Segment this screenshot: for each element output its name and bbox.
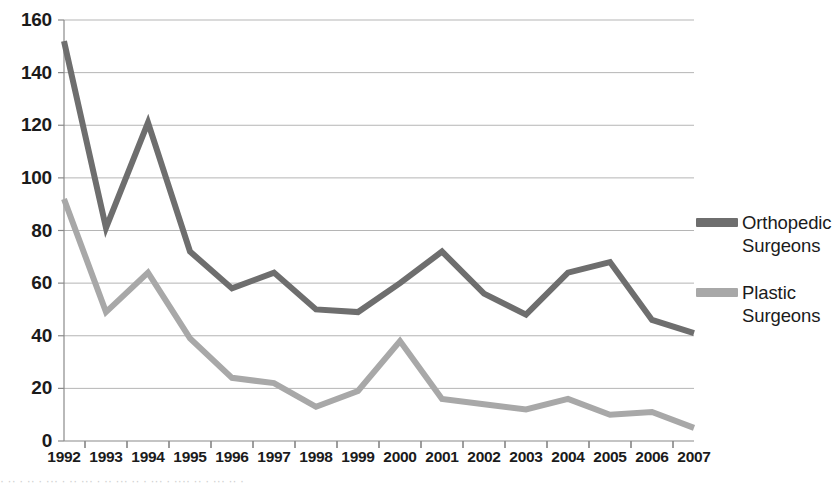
x-axis-ticks [85, 441, 673, 448]
cropped-caption: · ·· · ·· · ··· · ·· ··· · ·· ··· ·· · ·… [0, 474, 838, 484]
x-axis-tick-label: 2000 [377, 449, 423, 465]
x-axis-tick-label: 1992 [41, 449, 87, 465]
x-axis-tick-label: 2002 [461, 449, 507, 465]
x-axis-tick-label: 1999 [335, 449, 381, 465]
legend-label-orthopedic-line2: Surgeons [742, 235, 820, 256]
legend-item-plastic-surgeons[interactable]: PlasticSurgeons [696, 281, 836, 327]
legend-swatch-plastic [696, 288, 738, 297]
y-axis-ticks [58, 20, 64, 441]
y-axis-tick-label: 140 [8, 63, 52, 82]
x-axis-tick-label: 2005 [587, 449, 633, 465]
x-axis-tick-label: 1994 [125, 449, 171, 465]
legend-swatch-orthopedic [696, 218, 738, 227]
y-axis-tick-label: 40 [8, 326, 52, 345]
y-axis-tick-label: 80 [8, 221, 52, 240]
line-chart: 020406080100120140160 199219931994199519… [0, 0, 838, 484]
x-axis-tick-label: 1997 [251, 449, 297, 465]
x-axis-tick-label: 1993 [83, 449, 129, 465]
x-axis-tick-label: 1995 [167, 449, 213, 465]
legend-item-orthopedic-surgeons[interactable]: OrthopedicSurgeons [696, 211, 836, 257]
gridlines [64, 20, 694, 388]
y-axis-tick-label: 120 [8, 115, 52, 134]
y-axis-labels: 020406080100120140160 [0, 0, 52, 484]
legend-label-orthopedic-line1: Orthopedic [742, 212, 832, 233]
legend-label-orthopedic: OrthopedicSurgeons [742, 211, 832, 257]
chart-legend: OrthopedicSurgeons PlasticSurgeons [696, 211, 836, 352]
x-axis-tick-label: 1998 [293, 449, 339, 465]
legend-label-plastic: PlasticSurgeons [742, 281, 820, 327]
legend-label-plastic-line1: Plastic [742, 282, 796, 303]
x-axis-tick-label: 2004 [545, 449, 591, 465]
x-axis-tick-label: 2006 [629, 449, 675, 465]
x-axis-tick-label: 1996 [209, 449, 255, 465]
series-lines [64, 41, 694, 428]
x-axis-tick-label: 2003 [503, 449, 549, 465]
y-axis-tick-label: 100 [8, 168, 52, 187]
y-axis-tick-label: 160 [8, 10, 52, 29]
legend-label-plastic-line2: Surgeons [742, 305, 820, 326]
y-axis-tick-label: 60 [8, 273, 52, 292]
x-axis-tick-label: 2007 [671, 449, 717, 465]
x-axis-tick-label: 2001 [419, 449, 465, 465]
y-axis-tick-label: 20 [8, 378, 52, 397]
y-axis-tick-label: 0 [8, 431, 52, 450]
x-axis-labels: 1992199319941995199619971998199920002001… [64, 449, 694, 475]
